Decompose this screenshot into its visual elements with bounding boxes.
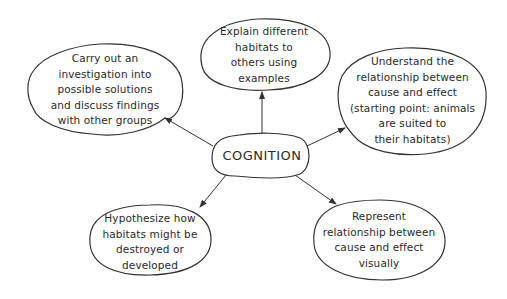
node-top-left: Carry out an investigation into possible… xyxy=(35,51,175,129)
node-center-cognition: COGNITION xyxy=(212,148,312,163)
edge-to-bottom-right xyxy=(295,175,336,204)
edge-to-bottom-left xyxy=(200,175,226,207)
node-top-center: Explain different habitats to others usi… xyxy=(200,24,328,86)
node-right: Understand the relationship between caus… xyxy=(340,54,485,147)
node-bottom-left: Hypothesize how habitats might be destro… xyxy=(90,211,210,273)
node-bottom-right: Represent relationship between cause and… xyxy=(313,209,445,271)
mind-map-diagram: Carry out an investigation into possible… xyxy=(0,0,507,299)
